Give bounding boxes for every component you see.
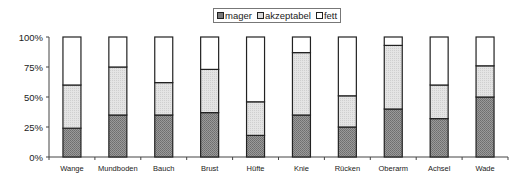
x-tick-label: Bauch [153,164,174,173]
legend-item-akzeptabel: akzeptabel [257,10,311,21]
legend-item-fett: fett [316,10,337,21]
stacked-percent-bar-chart: 0%25%50%75%100%WangeMundbodenBauchBrustH… [0,0,512,178]
x-tick-label: Wade [475,164,494,173]
x-tick-label: Knie [294,164,309,173]
segment-mager [247,135,265,157]
x-tick-label: Brust [201,164,219,173]
bars [63,37,494,157]
segment-fett [247,37,265,102]
bar-bauch [155,37,173,157]
segment-akzeptabel [109,67,127,115]
legend-label-mager: mager [225,10,252,21]
y-tick-label: 25% [24,122,44,133]
segment-akzeptabel [201,69,219,112]
segment-fett [384,37,402,45]
segment-mager [63,128,81,157]
segment-fett [338,37,356,96]
legend-swatch-fett [316,12,323,19]
segment-mager [476,97,494,157]
x-tick-label: Achsel [428,164,451,173]
bar-wange [63,37,81,157]
segment-akzeptabel [430,85,448,119]
y-tick-label: 100% [19,32,44,43]
segment-fett [201,37,219,69]
segment-akzeptabel [338,96,356,127]
legend: mager akzeptabel fett [213,8,341,23]
segment-akzeptabel [292,53,310,115]
bar-rücken [338,37,356,157]
legend-item-mager: mager [217,10,252,21]
legend-swatch-akzeptabel [257,12,264,19]
x-tick-label: Hüfte [247,164,265,173]
segment-akzeptabel [63,85,81,128]
segment-mager [430,119,448,157]
legend-label-fett: fett [324,10,337,21]
segment-mager [201,113,219,157]
segment-fett [476,37,494,66]
segment-mager [155,115,173,157]
plot-area: 0%25%50%75%100%WangeMundbodenBauchBrustH… [0,0,512,178]
segment-akzeptabel [384,45,402,109]
bar-wade [476,37,494,157]
bar-hüfte [247,37,265,157]
bar-achsel [430,37,448,157]
bar-mundboden [109,37,127,157]
segment-fett [430,37,448,85]
x-tick-label: Rücken [335,164,360,173]
segment-akzeptabel [476,66,494,97]
legend-label-akzeptabel: akzeptabel [265,10,311,21]
bar-knie [292,37,310,157]
segment-fett [63,37,81,85]
segment-akzeptabel [155,83,173,115]
bar-brust [201,37,219,157]
segment-akzeptabel [247,102,265,136]
y-tick-label: 75% [24,62,44,73]
y-tick-label: 50% [24,92,44,103]
segment-fett [155,37,173,83]
y-tick-label: 0% [29,152,43,163]
x-tick-label: Wange [60,164,84,173]
segment-mager [338,127,356,157]
segment-mager [109,115,127,157]
segment-mager [292,115,310,157]
segment-fett [292,37,310,53]
x-tick-label: Oberarm [378,164,408,173]
legend-swatch-mager [217,12,224,19]
bar-oberarm [384,37,402,157]
segment-fett [109,37,127,67]
x-tick-label: Mundboden [98,164,138,173]
segment-mager [384,109,402,157]
